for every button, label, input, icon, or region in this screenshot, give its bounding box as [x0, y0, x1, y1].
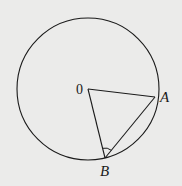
segment-oa	[88, 89, 155, 97]
label-b: B	[100, 163, 109, 179]
geometry-diagram: 0 A B	[0, 0, 182, 186]
segment-ob	[88, 89, 105, 158]
label-o: 0	[76, 82, 83, 97]
angle-mark-b	[103, 148, 112, 150]
label-a: A	[159, 89, 170, 105]
